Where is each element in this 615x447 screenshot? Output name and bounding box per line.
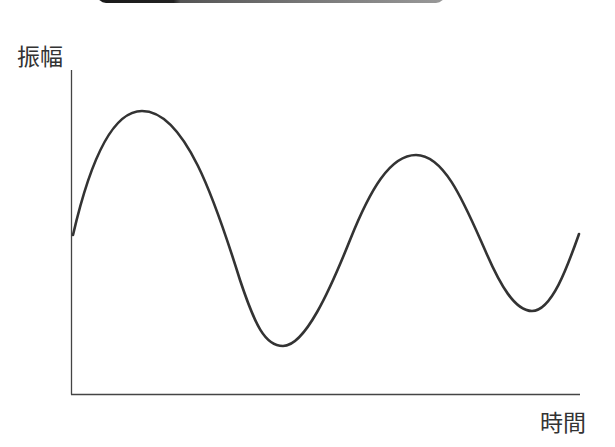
x-axis-label: 時間 [540, 404, 586, 438]
waveform-plot [0, 0, 615, 447]
wave-line [73, 111, 579, 346]
